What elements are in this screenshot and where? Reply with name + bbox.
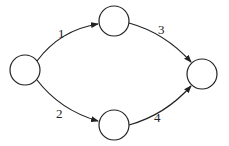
edge-label-4: 4 [154, 110, 161, 125]
node-start [10, 55, 40, 85]
edge-label-3: 3 [158, 22, 165, 37]
node-end [187, 59, 217, 89]
edge-label-1: 1 [58, 26, 65, 41]
edge-label-2: 2 [56, 106, 63, 121]
network-diagram: 1 2 3 4 [0, 0, 229, 146]
node-top [99, 6, 129, 36]
edge-1-arrow [37, 24, 98, 61]
node-bottom [99, 110, 129, 140]
edge-2-arrow [37, 80, 98, 121]
